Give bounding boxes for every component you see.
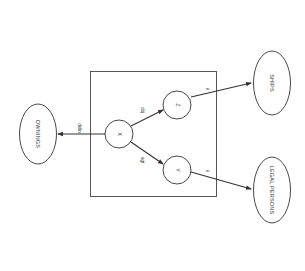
edge-label-e-legal-persons: e bbox=[205, 170, 210, 173]
edge-label-agt: agt bbox=[140, 157, 145, 164]
concept-ships: SHIPS bbox=[254, 51, 291, 115]
edge-label-e-ships: e bbox=[205, 88, 210, 91]
concept-legal-persons: LEGAL PERSONS bbox=[254, 157, 291, 223]
semantic-network-diagram: delin obj agt e e X Z Y OWNINGS SHIPS LE… bbox=[0, 0, 305, 271]
edge-x-to-z bbox=[131, 110, 163, 126]
node-y: Y bbox=[163, 156, 191, 184]
edge-label-delin: delin bbox=[77, 123, 82, 133]
node-z: Z bbox=[163, 91, 191, 119]
concept-ships-label: SHIPS bbox=[269, 74, 275, 92]
node-x-label: X bbox=[117, 132, 123, 136]
edge-x-to-y bbox=[131, 142, 163, 164]
concept-ownings: OWNINGS bbox=[20, 104, 57, 164]
edge-label-obj: obj bbox=[140, 107, 145, 113]
edge-z-to-ships bbox=[191, 83, 251, 97]
concept-legal-persons-label: LEGAL PERSONS bbox=[269, 166, 275, 215]
concept-ownings-label: OWNINGS bbox=[35, 120, 41, 148]
node-y-label: Y bbox=[175, 168, 181, 172]
node-x: X bbox=[105, 120, 133, 148]
edge-y-to-legal-persons bbox=[191, 172, 251, 189]
